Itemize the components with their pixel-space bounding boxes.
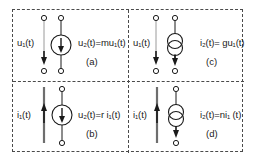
- terminal-icon: [153, 15, 158, 20]
- terminal-icon: [58, 15, 63, 20]
- quadrant-b-caption: (b): [86, 128, 98, 139]
- quadrant-d-output-label: i₂(t)=ni₁ (t): [200, 110, 241, 120]
- terminal-icon: [172, 15, 177, 20]
- terminal-icon: [59, 140, 64, 145]
- terminal-icon: [172, 68, 177, 73]
- terminal-icon: [153, 68, 158, 73]
- quadrant-d: i₁(t) i₂(t)=ni₁ (t) (d): [128, 81, 243, 152]
- terminal-icon: [173, 140, 178, 145]
- terminal-icon: [173, 86, 178, 91]
- quadrant-d-input-label: i₁(t): [133, 110, 147, 120]
- quadrant-a-output-label: u₂(t)=mu₁(t): [78, 38, 126, 48]
- terminal-icon: [59, 86, 64, 91]
- quadrant-d-caption: (d): [206, 128, 218, 139]
- dependent-current-source-icon: [168, 34, 183, 56]
- arrow-down-icon: [173, 130, 179, 138]
- terminal-icon: [41, 15, 46, 20]
- dependent-current-source-icon: [169, 105, 184, 127]
- arrow-up-icon: [154, 103, 160, 111]
- arrow-up-icon: [41, 103, 47, 111]
- quadrant-c-input-label: u₁(t): [133, 38, 150, 48]
- circuit-figure: u₁(t) u₂(t)=mu₁(t) (a): [0, 0, 254, 162]
- terminal-icon: [58, 68, 63, 73]
- quadrant-c-caption: (c): [206, 56, 217, 67]
- quadrant-a: u₁(t) u₂(t)=mu₁(t) (a): [12, 9, 127, 80]
- quadrant-b: i₁(t) u₂(t)=r i₁(t) (b): [12, 81, 127, 152]
- quadrant-a-caption: (a): [86, 56, 98, 67]
- quadrant-b-output-label: u₂(t)=r i₁(t): [78, 110, 120, 120]
- quadrant-c: u₁(t) i₂(t)= gu₁(t) (c): [128, 9, 243, 80]
- terminal-icon: [41, 68, 46, 73]
- quadrant-b-input-label: i₁(t): [17, 110, 31, 120]
- quadrant-c-output-label: i₂(t)= gu₁(t): [200, 38, 244, 48]
- quadrant-a-input-label: u₁(t): [17, 38, 34, 48]
